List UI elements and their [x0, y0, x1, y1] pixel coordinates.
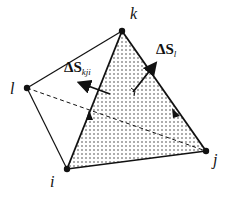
tetrahedron-diagram: k l i j ΔSkji ΔSl [0, 0, 225, 197]
diagram-graphic [0, 0, 225, 197]
vector-label-dS-kji: ΔSkji [64, 60, 91, 77]
vertex-label-l: l [10, 81, 14, 97]
vertex-label-i: i [50, 174, 54, 190]
vertex-label-j: j [213, 152, 217, 168]
vertex-label-k: k [130, 6, 137, 22]
vector-label-dS-l: ΔSl [156, 42, 176, 59]
